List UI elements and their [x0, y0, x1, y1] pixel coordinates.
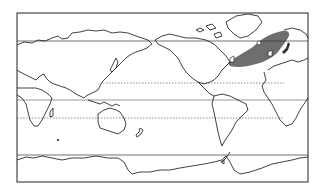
world-map [0, 0, 323, 193]
island-dot [57, 139, 59, 141]
iceland-marker [257, 41, 261, 45]
